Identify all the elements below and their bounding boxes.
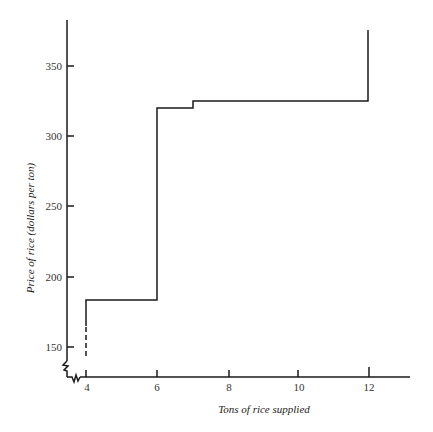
- x-tick-label-8: 8: [226, 381, 232, 393]
- supply-curve-line: [86, 30, 368, 326]
- y-axis-title: Price of rice (dollars per ton): [24, 162, 37, 294]
- y-tick-label-200: 200: [46, 271, 63, 283]
- x-tick-label-12: 12: [364, 381, 375, 393]
- y-tick-label-300: 300: [46, 130, 63, 142]
- supply-step-chart: 350 300 250 200 150 4 6 8 10 12 Tons of …: [0, 0, 433, 432]
- x-ticks: [86, 367, 369, 377]
- x-axis-break-icon: [67, 375, 80, 382]
- y-tick-label-350: 350: [46, 60, 63, 72]
- x-tick-label-10: 10: [294, 381, 306, 393]
- x-tick-label-6: 6: [154, 381, 160, 393]
- y-ticks: [67, 66, 74, 347]
- y-tick-label-150: 150: [46, 341, 63, 353]
- y-axis-break-icon: [63, 361, 68, 377]
- x-tick-label-4: 4: [84, 381, 90, 393]
- x-axis-title: Tons of rice supplied: [218, 403, 310, 415]
- y-tick-label-250: 250: [46, 200, 63, 212]
